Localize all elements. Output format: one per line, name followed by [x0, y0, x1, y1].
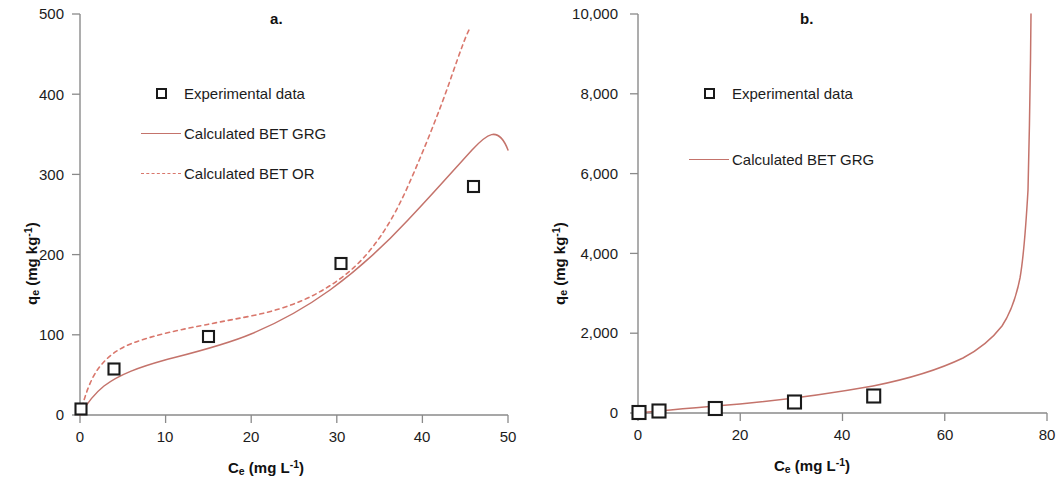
panel-b-xaxis-title: Ce (mg L-1)	[774, 456, 850, 475]
yaxis-superscript: -1	[550, 227, 562, 236]
panel-a-axes	[72, 14, 508, 423]
dashed-line-icon	[138, 173, 184, 174]
panel-a-ytick: 0	[6, 406, 64, 423]
curve-bet-grg	[638, 14, 1031, 413]
data-marker	[468, 181, 479, 192]
xaxis-unit-close: )	[845, 457, 850, 474]
panel-a-ytick: 400	[6, 86, 64, 103]
data-marker	[709, 402, 722, 415]
data-marker	[788, 396, 801, 409]
panel-a-markers	[76, 181, 480, 415]
yaxis-unit-close: )	[23, 222, 40, 227]
legend-item-bet-grg[interactable]: Calculated BET GRG	[686, 151, 874, 168]
panel-b-ytick: 0	[538, 404, 618, 421]
xaxis-subscript: e	[239, 465, 245, 477]
data-marker	[76, 404, 87, 415]
legend-label: Calculated BET GRG	[184, 125, 326, 142]
xaxis-symbol: C	[774, 457, 785, 474]
panel-a-xtick: 0	[60, 428, 100, 445]
data-marker	[633, 406, 646, 419]
legend-item-experimental-data[interactable]: Experimental data	[138, 85, 305, 102]
panel-b: b.	[528, 0, 1056, 484]
yaxis-subscript: e	[557, 290, 569, 296]
xaxis-symbol: C	[228, 459, 239, 476]
panel-b-xtick: 60	[925, 426, 965, 443]
panel-a-xtick: 40	[402, 428, 442, 445]
panel-b-xtick: 40	[822, 426, 862, 443]
panel-b-yaxis-title: qe (mg kg-1)	[550, 222, 569, 305]
panel-a-xtick: 20	[231, 428, 271, 445]
panel-b-xtick: 0	[618, 426, 658, 443]
data-marker	[867, 390, 880, 403]
panel-a-xtick: 30	[317, 428, 357, 445]
xaxis-unit: (mg L	[795, 457, 836, 474]
panel-b-ytick: 2,000	[538, 324, 618, 341]
data-marker	[336, 258, 347, 269]
data-marker	[203, 331, 214, 342]
panel-a-yaxis-title: qe (mg kg-1)	[22, 222, 41, 305]
yaxis-superscript: -1	[22, 227, 34, 236]
panel-a-xaxis-title: Ce (mg L-1)	[228, 458, 304, 477]
panel-b-xtick: 20	[720, 426, 760, 443]
legend-label: Experimental data	[732, 85, 853, 102]
panel-b-axes	[630, 14, 1047, 421]
yaxis-unit: (mg kg	[551, 237, 568, 286]
yaxis-unit-close: )	[551, 222, 568, 227]
yaxis-symbol: q	[23, 296, 40, 305]
xaxis-unit-close: )	[299, 459, 304, 476]
open-square-icon	[686, 88, 732, 99]
xaxis-subscript: e	[785, 463, 791, 475]
legend-label: Experimental data	[184, 85, 305, 102]
panel-a-plot	[0, 0, 528, 484]
legend-item-bet-grg[interactable]: Calculated BET GRG	[138, 125, 326, 142]
yaxis-symbol: q	[551, 296, 568, 305]
legend-item-experimental-data[interactable]: Experimental data	[686, 85, 853, 102]
panel-a-xtick: 10	[145, 428, 185, 445]
panel-a-ytick: 300	[6, 166, 64, 183]
panel-a-ytick: 100	[6, 326, 64, 343]
panel-a-ytick: 500	[6, 5, 64, 22]
panel-b-ytick: 8,000	[538, 85, 618, 102]
legend-label: Calculated BET GRG	[732, 151, 874, 168]
panel-a: a.	[0, 0, 528, 484]
xaxis-superscript: -1	[290, 458, 299, 470]
data-marker	[653, 405, 666, 418]
solid-line-icon	[138, 133, 184, 134]
panel-b-ytick: 6,000	[538, 165, 618, 182]
panel-b-ytick: 10,000	[538, 5, 618, 22]
open-square-icon	[138, 88, 184, 99]
yaxis-unit: (mg kg	[23, 237, 40, 286]
solid-line-icon	[686, 159, 732, 160]
figure-container: a.	[0, 0, 1056, 484]
panel-a-xtick: 50	[488, 428, 528, 445]
xaxis-unit: (mg L	[249, 459, 290, 476]
xaxis-superscript: -1	[836, 456, 845, 468]
legend-label: Calculated BET OR	[184, 165, 315, 182]
panel-b-xtick: 80	[1027, 426, 1056, 443]
legend-item-bet-or[interactable]: Calculated BET OR	[138, 165, 315, 182]
data-marker	[109, 364, 120, 375]
yaxis-subscript: e	[29, 290, 41, 296]
